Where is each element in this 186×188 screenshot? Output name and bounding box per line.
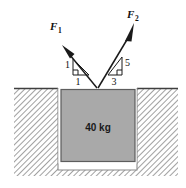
f2-run-label: 3 [112,76,117,87]
f2-right-angle-mark [117,70,122,75]
f2-rise-label: 5 [125,57,130,68]
physics-diagram: 40 kg F 1 1 1 F 2 5 3 [0,0,186,188]
f2-label-subscript: 2 [135,14,139,23]
f2-label: F [126,8,135,20]
f1-label: F [49,20,58,32]
f1-right-angle-mark [73,70,78,75]
f1-triangle-outline [73,59,89,75]
f2-slope-triangle: 5 3 [108,57,130,87]
f1-label-subscript: 1 [58,26,62,35]
f1-arrowhead [62,45,75,59]
block-mass-label: 40 kg [85,122,111,133]
f2-arrowhead [125,23,134,42]
force-vector-f2: F 2 [98,8,139,88]
force-vector-f1: F 1 [49,20,97,88]
f1-run-label: 1 [76,76,81,87]
f1-rise-label: 1 [65,59,70,70]
block: 40 kg [59,89,137,164]
diagram-canvas: 40 kg F 1 1 1 F 2 5 3 [0,0,186,188]
